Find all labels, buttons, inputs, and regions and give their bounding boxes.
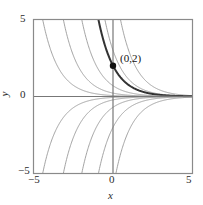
exponential-solution-curves-figure: 5 0 −5 −5 0 5 y x (0,2) — [0, 0, 203, 205]
solution-curve-C2 — [81, 0, 192, 96]
y-axis-tick-zero: 0 — [20, 89, 26, 100]
x-axis-tick-right: 5 — [186, 174, 192, 185]
solution-curve-C-07 — [65, 97, 193, 205]
point-marker-group — [110, 62, 116, 68]
y-axis-tick-top: 5 — [20, 13, 26, 24]
x-axis-tick-zero: 0 — [109, 174, 115, 185]
solution-curve-C3 — [88, 0, 193, 96]
solution-curve-C-2 — [81, 97, 192, 205]
point-annotation-label: (0,2) — [120, 52, 141, 64]
axes-group — [34, 20, 193, 174]
point-marker — [110, 62, 116, 68]
solution-curve-C-022 — [46, 97, 192, 205]
x-axis-tick-left: −5 — [28, 174, 40, 185]
solution-curve-C022 — [46, 0, 192, 96]
y-axis-label: y — [0, 92, 10, 97]
solution-curve-C07 — [65, 0, 193, 96]
x-axis-label: x — [108, 189, 113, 201]
solution-curve-C8 — [103, 0, 192, 96]
